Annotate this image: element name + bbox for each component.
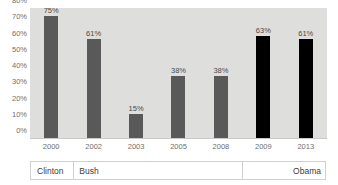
bar-value-label: 38%	[213, 66, 228, 75]
presidency-cell: Clinton	[31, 162, 73, 179]
presidency-label: Bush	[79, 166, 98, 176]
bar-value-label: 61%	[298, 29, 313, 38]
y-axis-tick-label: 50%	[12, 46, 27, 54]
bar-value-label: 63%	[256, 26, 271, 35]
y-axis-tick-label: 10%	[12, 111, 27, 119]
y-axis-tick-label: 20%	[12, 95, 27, 103]
x-axis-tick-label: 2000	[43, 141, 60, 153]
bar-group: 75%	[30, 8, 72, 138]
bar-group: 61%	[285, 8, 327, 138]
y-axis: 0%10%20%30%40%50%60%70%80%	[0, 8, 30, 139]
y-axis-tick-label: 60%	[12, 30, 27, 38]
y-axis-tick-label: 40%	[12, 62, 27, 70]
presidency-cell-divider	[73, 162, 74, 179]
x-axis-line	[30, 138, 327, 139]
bar-value-label: 15%	[129, 104, 144, 113]
x-axis-tick-label: 2002	[85, 141, 102, 153]
bar-group: 15%	[115, 8, 157, 138]
presidency-label: Clinton	[37, 166, 63, 176]
x-axis-tick-label: 2008	[213, 141, 230, 153]
x-axis-tick-label: 2003	[128, 141, 145, 153]
bar[interactable]	[129, 114, 143, 138]
bar-chart: 0%10%20%30%40%50%60%70%80% 75%61%15%38%3…	[0, 0, 338, 185]
bar-value-label: 75%	[44, 6, 59, 15]
y-axis-tick-label: 30%	[12, 78, 27, 86]
y-axis-tick-label: 80%	[12, 0, 27, 5]
presidency-band: ClintonBushObama	[30, 161, 326, 180]
x-axis: 2000200220032005200820092013	[30, 141, 327, 155]
y-axis-tick-label: 0%	[16, 127, 27, 135]
x-axis-tick-label: 2009	[255, 141, 272, 153]
bar-value-label: 61%	[86, 29, 101, 38]
y-axis-tick-label: 70%	[12, 13, 27, 21]
bar[interactable]	[171, 76, 185, 138]
bars-layer: 75%61%15%38%38%63%61%	[30, 8, 327, 138]
bar-group: 38%	[157, 8, 199, 138]
bar-group: 61%	[72, 8, 114, 138]
bar[interactable]	[214, 76, 228, 138]
bar-group: 38%	[200, 8, 242, 138]
presidency-label: Obama	[293, 166, 321, 176]
x-axis-tick-label: 2013	[297, 141, 314, 153]
bar-value-label: 38%	[171, 66, 186, 75]
bar-group: 63%	[242, 8, 284, 138]
x-axis-tick-label: 2005	[170, 141, 187, 153]
bar[interactable]	[44, 16, 58, 138]
presidency-cell: Obama	[242, 162, 327, 179]
bar[interactable]	[87, 39, 101, 138]
bar[interactable]	[299, 39, 313, 138]
presidency-cell-divider	[242, 162, 243, 179]
presidency-cell: Bush	[73, 162, 242, 179]
bar[interactable]	[256, 36, 270, 138]
